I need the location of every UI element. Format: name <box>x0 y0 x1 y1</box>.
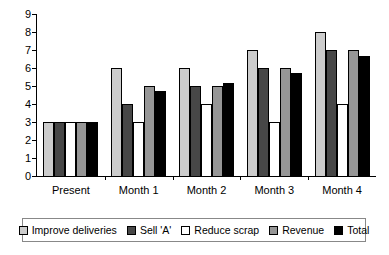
bar <box>348 50 359 176</box>
y-tick-label: 1 <box>25 153 31 164</box>
bar <box>122 104 133 176</box>
bar <box>326 50 337 176</box>
bar-group <box>240 14 308 176</box>
y-tick-label: 8 <box>25 27 31 38</box>
bar-group <box>37 14 105 176</box>
bar <box>223 83 234 176</box>
bar-group <box>105 14 173 176</box>
bar <box>43 122 54 176</box>
x-axis-label: Month 3 <box>254 184 294 196</box>
bar <box>65 122 76 176</box>
bar <box>144 86 155 176</box>
bar <box>258 68 269 176</box>
plot-area <box>37 14 376 176</box>
x-tick-mark <box>105 176 106 180</box>
legend-swatch-icon <box>127 226 136 235</box>
legend-item[interactable]: Total <box>334 225 369 236</box>
bar <box>201 104 212 176</box>
y-tick-label: 5 <box>25 81 31 92</box>
bar <box>247 50 258 176</box>
bar <box>212 86 223 176</box>
x-axis-label: Present <box>52 184 90 196</box>
bar-chart: 0123456789 PresentMonth 1Month 2Month 3M… <box>0 0 389 255</box>
y-tick-label: 7 <box>25 45 31 56</box>
x-tick-mark <box>240 176 241 180</box>
legend-item[interactable]: Reduce scrap <box>181 225 259 236</box>
bar <box>87 122 98 176</box>
legend-item[interactable]: Improve deliveries <box>19 225 117 236</box>
legend-swatch-icon <box>269 226 278 235</box>
y-tick-label: 0 <box>25 171 31 182</box>
x-axis-label: Month 1 <box>119 184 159 196</box>
x-tick-mark <box>308 176 309 180</box>
bar-group <box>173 14 241 176</box>
bar <box>359 56 370 176</box>
legend-swatch-icon <box>334 226 343 235</box>
legend-swatch-icon <box>19 226 28 235</box>
legend-item[interactable]: Sell 'A' <box>127 225 171 236</box>
bar <box>291 73 302 176</box>
legend-label: Sell 'A' <box>140 225 171 236</box>
bar <box>76 122 87 176</box>
legend-swatch-icon <box>181 226 190 235</box>
x-axis-label: Month 2 <box>187 184 227 196</box>
y-axis: 0123456789 <box>0 0 36 176</box>
y-tick-label: 2 <box>25 135 31 146</box>
legend-label: Improve deliveries <box>32 225 117 236</box>
bar <box>133 122 144 176</box>
bar-group <box>308 14 376 176</box>
bar <box>280 68 291 176</box>
y-tick-label: 6 <box>25 63 31 74</box>
x-axis-label: Month 4 <box>322 184 362 196</box>
chart-legend: Improve deliveriesSell 'A'Reduce scrapRe… <box>22 218 366 242</box>
y-tick-label: 9 <box>25 9 31 20</box>
plot-wrapper: 0123456789 PresentMonth 1Month 2Month 3M… <box>0 0 389 212</box>
bar <box>155 91 166 177</box>
x-axis-line <box>36 176 376 177</box>
y-tick-label: 3 <box>25 117 31 128</box>
bar <box>54 122 65 176</box>
bar <box>190 86 201 176</box>
legend-label: Reduce scrap <box>194 225 259 236</box>
bar <box>315 32 326 176</box>
legend-label: Total <box>347 225 369 236</box>
bar <box>337 104 348 176</box>
x-tick-mark <box>173 176 174 180</box>
legend-item[interactable]: Revenue <box>269 225 324 236</box>
y-tick-label: 4 <box>25 99 31 110</box>
legend-label: Revenue <box>282 225 324 236</box>
bar <box>269 122 280 176</box>
bar <box>111 68 122 176</box>
bar <box>179 68 190 176</box>
